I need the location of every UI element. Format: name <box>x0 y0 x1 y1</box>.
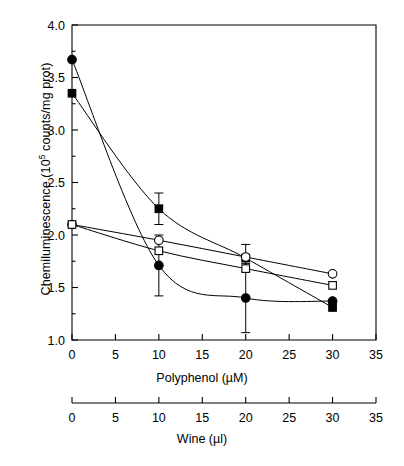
data-point-filled-square <box>68 89 76 97</box>
data-series-layer <box>68 55 337 332</box>
series-line <box>72 225 333 286</box>
wine-tick-label: 0 <box>69 411 76 425</box>
y-axis-title-main: Chemiluminescence (10 <box>39 159 53 295</box>
data-point-filled-circle <box>68 55 77 64</box>
data-point-open-circle <box>328 270 337 279</box>
x-tick-label: 25 <box>282 348 296 362</box>
y-axis-title-tail: counts/mg prot) <box>39 63 53 155</box>
x-tick-label: 0 <box>69 348 76 362</box>
wine-tick-label: 15 <box>195 411 209 425</box>
data-point-filled-square <box>155 205 163 213</box>
x-tick-label: 15 <box>195 348 209 362</box>
data-point-open-square <box>68 221 76 229</box>
x-tick-label: 5 <box>112 348 119 362</box>
wine-tick-label: 35 <box>369 411 383 425</box>
axes-frame <box>72 25 376 340</box>
data-point-filled-circle <box>241 294 250 303</box>
data-point-open-circle <box>155 236 164 245</box>
wine-tick-label: 30 <box>326 411 340 425</box>
x-tick-label: 10 <box>152 348 166 362</box>
x-tick-label: 30 <box>326 348 340 362</box>
series-line <box>72 60 333 302</box>
data-point-filled-square <box>329 304 337 312</box>
chemiluminescence-figure: Chemiluminescence (105 counts/mg prot) P… <box>0 0 404 466</box>
wine-tick-label: 25 <box>282 411 296 425</box>
x-axis-ticks-wine: 05101520253035 <box>69 397 383 425</box>
x-tick-label: 35 <box>369 348 383 362</box>
wine-tick-label: 5 <box>112 411 119 425</box>
wine-tick-label: 10 <box>152 411 166 425</box>
x-axis-title-polyphenol: Polyphenol (µM) <box>0 371 404 385</box>
y-axis-title: Chemiluminescence (105 counts/mg prot) <box>39 29 53 329</box>
plot-canvas: 1.01.52.02.53.03.54.0 05101520253035 051… <box>0 0 404 466</box>
plot-frame <box>72 25 376 340</box>
series-line <box>72 225 333 274</box>
x-axis-title-wine: Wine (µl) <box>0 432 404 446</box>
data-point-open-circle <box>241 253 250 262</box>
data-point-filled-circle <box>155 261 164 270</box>
x-tick-label: 20 <box>239 348 253 362</box>
wine-tick-label: 20 <box>239 411 253 425</box>
y-tick-label: 1.0 <box>48 334 65 348</box>
x-axis-ticks-polyphenol: 05101520253035 <box>69 334 383 362</box>
y-axis-title-exponent: 5 <box>37 154 47 159</box>
data-point-open-square <box>329 282 337 290</box>
data-point-open-square <box>242 265 250 273</box>
data-point-open-square <box>155 247 163 255</box>
series-line <box>72 93 333 307</box>
